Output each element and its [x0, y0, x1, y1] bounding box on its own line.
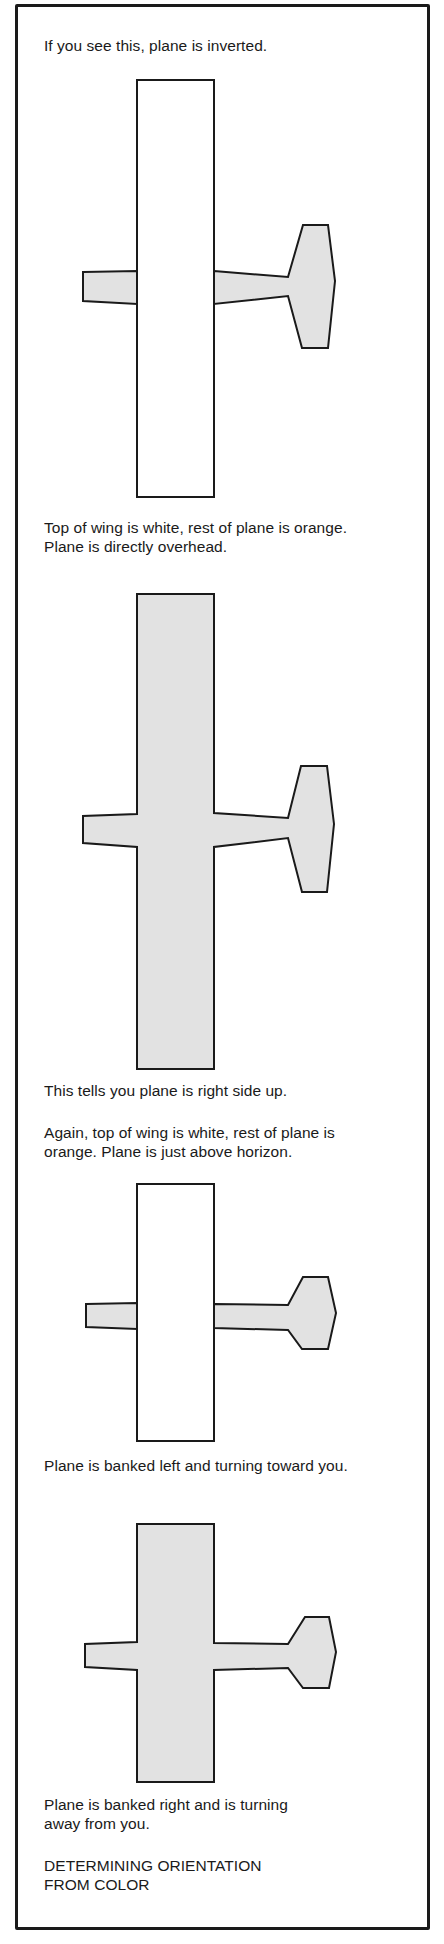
figure-title: DETERMINING ORIENTATION FROM COLOR: [44, 1856, 262, 1894]
plane-banked-right-icon: [0, 0, 444, 1790]
plane-silhouette: [85, 1524, 336, 1782]
caption-banked-right: Plane is banked right and is turning awa…: [44, 1795, 288, 1833]
